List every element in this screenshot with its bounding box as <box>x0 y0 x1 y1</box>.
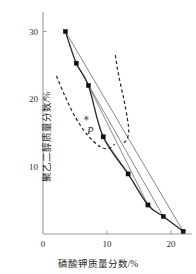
data-point-marker <box>126 172 130 176</box>
plot-canvas <box>0 0 196 274</box>
x-axis-title: 磷酸钾质量分数/% <box>0 256 196 270</box>
x-tick-label: 20 <box>167 240 176 249</box>
tie-lines <box>65 32 183 232</box>
axis-lines <box>43 12 192 234</box>
tie-line <box>88 86 148 205</box>
dashed-curve <box>115 55 128 143</box>
data-point-marker <box>161 214 165 218</box>
y-axis-title: 聚乙二醇质量分数/% <box>39 92 53 183</box>
y-tick-label: 10 <box>18 162 38 171</box>
data-point-marker <box>63 29 67 33</box>
dashed-curve <box>56 76 114 149</box>
x-tick-label: 10 <box>103 240 112 249</box>
data-point-marker <box>101 135 105 139</box>
annotation-label-p: P <box>87 126 93 136</box>
x-tick-label: 0 <box>41 240 46 249</box>
y-tick-label: 20 <box>18 95 38 104</box>
data-point-marker <box>74 61 78 65</box>
data-point-marker <box>181 229 185 233</box>
y-tick-label: 30 <box>18 27 38 36</box>
critical-point-marker: ✳ <box>83 115 90 123</box>
data-point-marker <box>86 83 90 87</box>
data-point-marker <box>146 203 150 207</box>
chart-figure: 01020 102030 P✳ 磷酸钾质量分数/% 聚乙二醇质量分数/% <box>0 0 196 274</box>
tie-line <box>65 32 183 232</box>
